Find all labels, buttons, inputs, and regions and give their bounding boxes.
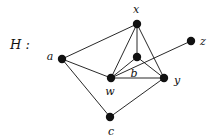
graph-vertex	[58, 55, 66, 63]
vertex-label-c: c	[108, 126, 114, 137]
graph-vertex	[160, 74, 168, 82]
vertex-label-b: b	[130, 68, 137, 79]
vertex-label-z: z	[200, 36, 206, 47]
vertex-label-w: w	[105, 86, 114, 97]
vertex-label-a: a	[47, 51, 54, 62]
graph-edge	[62, 24, 137, 59]
graph-vertex	[133, 20, 141, 28]
graph-vertex	[187, 37, 195, 45]
vertex-label-x: x	[133, 4, 139, 15]
graph-edge	[110, 78, 164, 117]
graph-drawing	[0, 0, 218, 140]
graph-vertex	[106, 113, 114, 121]
graph-figure: H : axbwyzc	[0, 0, 218, 140]
graph-edge	[111, 41, 191, 78]
vertex-label-y: y	[174, 75, 180, 86]
graph-vertex	[107, 74, 115, 82]
graph-edge	[62, 59, 110, 117]
graph-vertex	[133, 53, 141, 61]
graph-edge	[137, 24, 164, 78]
edge-layer	[62, 24, 191, 117]
